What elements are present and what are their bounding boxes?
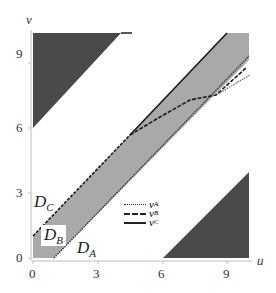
x-tick-0: 0 [29,266,36,282]
x-tick-9: 9 [223,266,230,282]
y-tick-9: 9 [16,46,23,62]
label-DA: DA [77,238,96,259]
label-DB: DB [41,225,66,246]
label-DC: DC [34,192,54,213]
legend: vA vB vC [124,200,159,227]
x-tick-6: 6 [158,266,165,282]
legend-vC: vC [124,218,159,227]
y-tick-6: 6 [16,120,23,136]
y-tick-0: 0 [16,250,23,266]
x-axis-label: u [257,253,264,269]
x-tick-3: 3 [93,266,100,282]
y-axis-label: v [26,12,32,28]
y-tick-3: 3 [16,185,23,201]
